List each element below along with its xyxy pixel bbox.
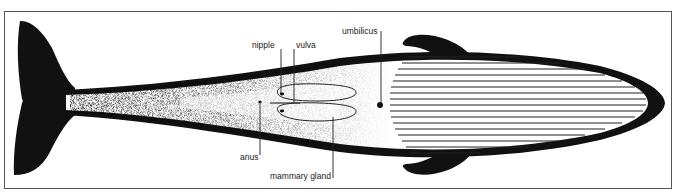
nipple-upper xyxy=(280,93,284,96)
nipple-label: nipple xyxy=(252,40,275,50)
anus-dot xyxy=(258,100,261,103)
whale-diagram: nipple vulva umbilicus anus mammary glan… xyxy=(0,0,682,194)
vulva-label: vulva xyxy=(296,40,316,50)
mammary-gland-label: mammary gland xyxy=(270,171,331,181)
umbilicus-dot xyxy=(377,102,383,108)
nipple-lower xyxy=(280,110,284,113)
anus-label: anus xyxy=(240,152,258,162)
umbilicus-label: umbilicus xyxy=(342,26,377,36)
